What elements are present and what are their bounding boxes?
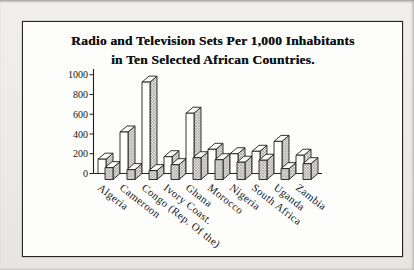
bar-television-nigeria-front [237, 162, 245, 179]
bar-group-algeria [98, 153, 120, 179]
scanned-page: Radio and Television Sets Per 1,000 Inha… [0, 0, 414, 270]
bar-radio-congo-rep-of-the-side [150, 76, 157, 173]
bar-group-nigeria [230, 148, 252, 180]
bars [98, 76, 318, 179]
y-tick-label-200: 200 [73, 148, 88, 159]
bar-radio-cameroon-front [120, 132, 128, 173]
x-axis-labels: AlgeriaCameroonCongo (Rep. Of the)Ivory … [96, 181, 329, 251]
bar-group-zambia [296, 149, 318, 179]
y-tick-label-400: 400 [73, 129, 88, 140]
bar-chart: 02004006008001000AlgeriaCameroonCongo (R… [0, 0, 414, 270]
y-tick-label-800: 800 [73, 89, 88, 100]
bar-television-algeria-front [105, 168, 113, 180]
bar-group-ivory-coast [164, 151, 186, 180]
bar-television-ivory-coast-front [171, 165, 179, 180]
bar-television-ghana-front [193, 158, 201, 180]
bar-television-zambia-front [303, 164, 311, 180]
y-tick-label-600: 600 [73, 109, 88, 120]
bar-television-south-africa-front [259, 160, 267, 179]
bar-radio-congo-rep-of-the-front [142, 82, 150, 173]
bar-group-cameroon [120, 126, 142, 179]
bar-group-congo-rep-of-the [142, 76, 164, 179]
bar-group-ghana [186, 107, 208, 179]
y-tick-label-1000: 1000 [68, 69, 88, 80]
y-tick-label-0: 0 [83, 168, 88, 179]
bar-television-morocco-front [215, 160, 223, 180]
bar-group-uganda [274, 135, 296, 179]
bar-group-morocco [208, 143, 230, 179]
bar-television-congo-rep-of-the-front [149, 171, 157, 180]
bar-television-cameroon-front [127, 170, 135, 180]
bar-group-south-africa [252, 145, 274, 179]
bar-television-uganda-front [281, 169, 289, 180]
